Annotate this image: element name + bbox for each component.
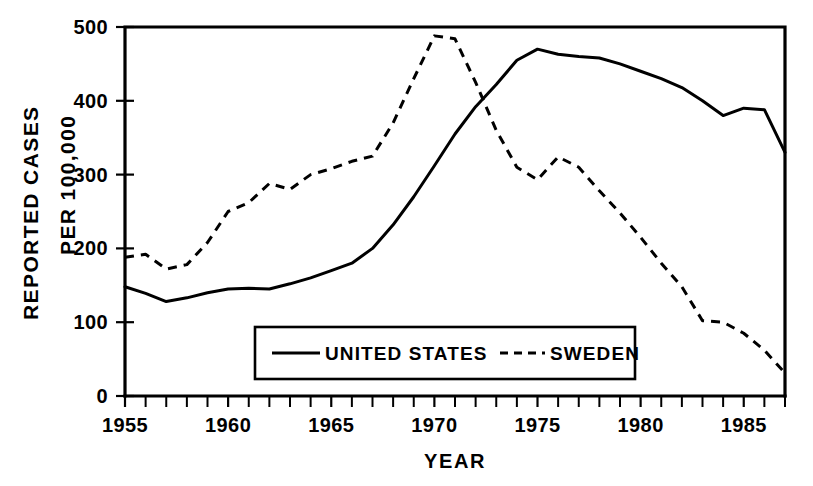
x-tick-label-1970: 1970 xyxy=(411,414,457,436)
chart-figure: REPORTED CASES PER 100,000 0100200300400… xyxy=(0,0,813,486)
x-tick-label-1965: 1965 xyxy=(308,414,354,436)
x-tick-label-1960: 1960 xyxy=(205,414,251,436)
x-tick-label-1980: 1980 xyxy=(618,414,664,436)
x-axis-ticks: 1955196019651970197519801985 xyxy=(102,396,785,436)
y-tick-label-0: 0 xyxy=(96,385,108,407)
x-tick-label-1975: 1975 xyxy=(514,414,560,436)
x-tick-label-1985: 1985 xyxy=(721,414,767,436)
series-line-united-states xyxy=(125,49,785,301)
y-tick-label-400: 400 xyxy=(73,90,108,112)
y-axis-title: REPORTED CASES PER 100,000 xyxy=(19,106,79,320)
y-tick-label-200: 200 xyxy=(73,237,108,259)
data-series xyxy=(125,36,785,373)
legend-label-sweden: SWEDEN xyxy=(550,343,640,364)
series-line-sweden xyxy=(125,36,785,373)
x-tick-label-1955: 1955 xyxy=(102,414,148,436)
y-tick-label-100: 100 xyxy=(73,311,108,333)
line-chart: REPORTED CASES PER 100,000 0100200300400… xyxy=(0,0,813,486)
y-axis-title-line1: REPORTED CASES xyxy=(19,106,42,320)
x-axis-title: YEAR xyxy=(424,450,486,472)
y-tick-label-500: 500 xyxy=(73,16,108,38)
y-tick-label-300: 300 xyxy=(73,164,108,186)
chart-legend: UNITED STATES SWEDEN xyxy=(255,327,640,379)
legend-label-united-states: UNITED STATES xyxy=(325,343,487,364)
